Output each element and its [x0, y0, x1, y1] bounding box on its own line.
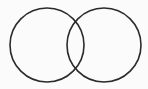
left-circle: [10, 8, 84, 82]
right-circle: [67, 8, 141, 82]
venn-diagram: [0, 0, 148, 89]
